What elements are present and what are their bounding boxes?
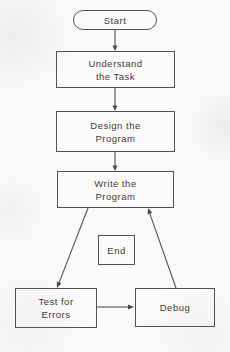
node-debug-label: Debug: [160, 301, 191, 314]
node-write-program: Write the Program: [57, 171, 174, 208]
node-understand-task-line1: Understand: [88, 57, 142, 70]
node-debug: Debug: [135, 288, 215, 327]
edge-write-to-test: [59, 208, 88, 282]
arrowhead-debug-to-write: [148, 208, 153, 215]
edge-debug-to-write: [150, 214, 176, 288]
flowchart-canvas: Start Understand the Task Design the Pro…: [0, 0, 230, 352]
node-understand-task: Understand the Task: [56, 51, 175, 88]
node-end: End: [98, 235, 135, 265]
node-write-program-line1: Write the: [94, 177, 136, 190]
node-start: Start: [73, 10, 157, 30]
node-test-errors: Test for Errors: [15, 288, 97, 328]
node-understand-task-line2: the Task: [96, 70, 135, 83]
node-write-program-line2: Program: [96, 190, 136, 203]
node-design-program-line1: Design the: [90, 119, 140, 132]
arrowhead-test-to-debug: [128, 305, 134, 310]
node-design-program: Design the Program: [56, 111, 175, 152]
node-end-label: End: [107, 244, 125, 257]
node-design-program-line2: Program: [96, 132, 136, 145]
node-test-errors-line1: Test for: [38, 295, 73, 308]
node-test-errors-line2: Errors: [42, 308, 71, 321]
node-start-label: Start: [104, 14, 127, 27]
